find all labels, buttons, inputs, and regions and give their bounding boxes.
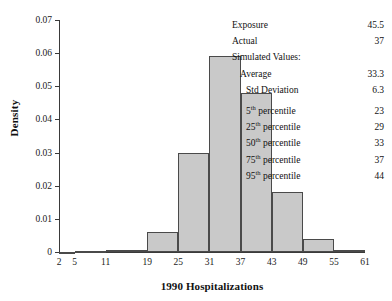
y-tick-label: 0.02 <box>35 181 52 191</box>
stats-row: Std Deviation6.3 <box>232 86 384 102</box>
histogram-bar <box>59 252 75 254</box>
stats-row: Average33.3 <box>232 70 384 86</box>
stats-row-value: 37 <box>375 37 385 47</box>
x-tick-label: 43 <box>267 257 277 267</box>
stats-row-label: 25th percentile <box>246 123 300 133</box>
stats-row-value: 33 <box>375 139 385 149</box>
x-tick-label: 61 <box>360 257 370 267</box>
x-tick-label: 11 <box>101 257 110 267</box>
x-tick-label: 55 <box>329 257 339 267</box>
y-tick-mark <box>55 186 60 187</box>
stats-row-value: 45.5 <box>367 21 384 31</box>
stats-row-label: Std Deviation <box>246 86 299 96</box>
x-axis-title: 1990 Hospitalizations <box>59 280 365 292</box>
y-tick-mark <box>55 119 60 120</box>
histogram-bar <box>147 232 178 252</box>
y-tick-mark <box>55 20 60 21</box>
x-tick-label: 19 <box>142 257 152 267</box>
y-tick-label: 0.05 <box>35 81 52 91</box>
stats-row: 95th percentile44 <box>232 172 384 188</box>
histogram-bar <box>106 250 147 252</box>
y-tick-mark <box>55 219 60 220</box>
x-tick-label: 49 <box>298 257 308 267</box>
stats-row-label: 95th percentile <box>246 172 300 182</box>
stats-row-label: Actual <box>232 37 257 47</box>
stats-row-value: 23 <box>375 107 385 117</box>
stats-row-label: 75th percentile <box>246 156 300 166</box>
statistics-panel: Exposure45.5Actual37Simulated Values:Ave… <box>232 21 384 188</box>
y-tick-label: 0.07 <box>35 15 52 25</box>
stats-row-label: 5th percentile <box>246 107 296 117</box>
stats-row-label: Average <box>240 70 271 80</box>
stats-row: Actual37 <box>232 37 384 53</box>
x-tick-label: 31 <box>205 257 215 267</box>
stats-row-value: 6.3 <box>372 86 384 96</box>
y-tick-mark <box>55 53 60 54</box>
stats-row: Exposure45.5 <box>232 21 384 37</box>
y-tick-mark <box>55 153 60 154</box>
histogram-bar <box>272 192 303 252</box>
x-tick-label: 2 <box>57 257 62 267</box>
y-axis-title: Density <box>8 78 20 158</box>
y-tick-label: 0.01 <box>35 214 52 224</box>
stats-row-value: 29 <box>375 123 385 133</box>
histogram-bar <box>75 251 106 253</box>
histogram-bar <box>178 153 209 252</box>
y-tick-mark <box>55 86 60 87</box>
stats-row-label: Simulated Values: <box>232 53 301 63</box>
x-tick-label: 25 <box>174 257 184 267</box>
y-tick-label: 0 <box>47 247 52 257</box>
stats-row-value: 37 <box>375 156 385 166</box>
y-tick-label: 0.06 <box>35 48 52 58</box>
x-tick-label: 37 <box>236 257 246 267</box>
y-tick-label: 0.03 <box>35 148 52 158</box>
y-tick-label: 0.04 <box>35 114 52 124</box>
x-tick-label: 5 <box>72 257 77 267</box>
histogram-figure: Density 0.070.060.050.040.030.020.010 25… <box>0 0 392 301</box>
histogram-bar <box>334 250 365 252</box>
stats-row-value: 33.3 <box>367 70 384 80</box>
stats-row-label: Exposure <box>232 21 268 31</box>
histogram-bar <box>303 239 334 252</box>
stats-row-value: 44 <box>375 172 385 182</box>
stats-row-label: 50th percentile <box>246 139 300 149</box>
stats-row: Simulated Values: <box>232 53 384 69</box>
